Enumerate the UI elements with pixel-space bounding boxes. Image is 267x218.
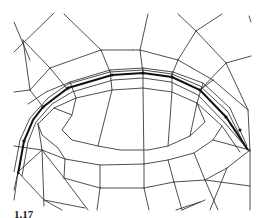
mesh-figure	[0, 0, 267, 218]
mesh-lines	[14, 13, 251, 210]
highlight-curve	[18, 73, 248, 174]
figure-caption: 1.17	[14, 209, 33, 218]
